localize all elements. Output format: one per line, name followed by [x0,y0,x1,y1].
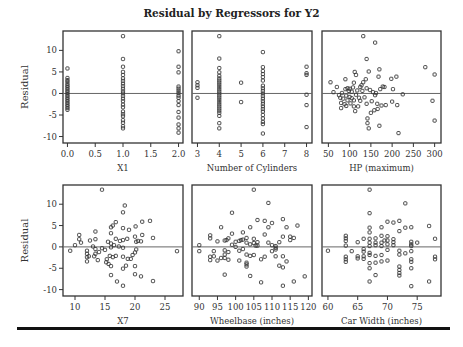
x-tick-label: 115 [282,302,298,312]
y-axis-label: Residual [19,65,30,109]
x-tick-label: 110 [264,302,280,312]
x-tick-label: 100 [342,149,358,159]
x-axis-label: Car Width (inches) [341,316,422,326]
y-tick-label: -10 [43,132,57,142]
x-axis-label: X1 [117,163,128,173]
panel-x1: 0.00.51.01.52.0X1-10-50510Residual [19,31,185,173]
y-axis-label: Residual [19,219,30,263]
x-axis-label: Wheelbase (inches) [210,316,294,326]
x-tick-label: 8 [304,149,309,159]
x-tick-label: 200 [384,149,400,159]
x-tick-label: 75 [412,302,423,312]
x-tick-label: 300 [427,149,443,159]
panel-hp: 50100150200250300HP (maximum) [322,31,443,173]
x-tick-label: 90 [194,302,205,312]
y-tick-label: 0 [52,88,57,98]
panel-cyl: 345678Number of Cylinders [192,31,312,173]
x-tick-label: 20 [130,302,141,312]
panel-cw: 60657075Car Width (inches) [322,185,441,326]
x-tick-label: 4 [217,149,222,159]
x-tick-label: 70 [382,302,393,312]
x-axis-label: X7 [117,316,128,326]
plot-frame [322,185,441,296]
panel-wb: 9095100105110115120Wheelbase (inches) [192,185,316,326]
x-tick-label: 0.0 [61,149,75,159]
y-tick-label: 5 [52,67,57,77]
x-axis-label: HP (maximum) [349,163,414,173]
x-tick-label: 7 [282,149,287,159]
y-tick-label: -5 [49,110,57,120]
y-tick-label: -5 [49,263,57,273]
x-tick-label: 250 [405,149,421,159]
x-tick-label: 5 [238,149,243,159]
x-axis-label: Number of Cylinders [207,163,297,173]
x-tick-label: 65 [352,302,363,312]
plot-frame [192,31,312,143]
y-tick-label: -10 [43,285,57,295]
x-tick-label: 50 [323,149,334,159]
x-tick-label: 95 [212,302,223,312]
x-tick-label: 2.0 [172,149,186,159]
x-tick-label: 15 [100,302,111,312]
x-tick-label: 1.0 [116,149,130,159]
x-tick-label: 3 [195,149,200,159]
plot-frame [192,185,312,296]
x-tick-label: 105 [246,302,262,312]
x-tick-label: 6 [260,149,265,159]
scatter-matrix: 0.00.51.01.52.0X1-10-50510Residual345678… [0,0,463,347]
y-tick-label: 5 [52,221,57,231]
y-tick-label: 10 [46,199,57,209]
x-tick-label: 150 [363,149,379,159]
bottom-rule [17,327,450,330]
y-tick-label: 0 [52,242,57,252]
x-tick-label: 10 [70,302,81,312]
x-tick-label: 60 [323,302,334,312]
x-tick-label: 100 [228,302,244,312]
x-tick-label: 1.5 [144,149,158,159]
y-tick-label: 10 [46,45,57,55]
panel-x7: 10152025X7-10-50510Residual [19,185,183,326]
x-tick-label: 0.5 [88,149,102,159]
x-tick-label: 120 [300,302,316,312]
x-tick-label: 25 [160,302,171,312]
